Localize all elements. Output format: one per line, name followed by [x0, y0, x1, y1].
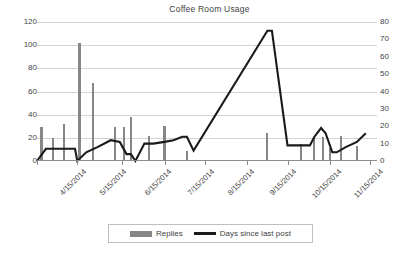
y-axis-right-tick-label: 30: [380, 105, 410, 113]
y-axis-right-tick-label: 0: [380, 157, 410, 165]
y-axis-left-tick-label: 40: [7, 111, 37, 119]
y-axis-right-tick-label: 50: [380, 70, 410, 78]
x-axis-tick-label: 5/15/2014: [98, 167, 128, 197]
x-axis-tick: [288, 161, 289, 165]
x-axis-tick: [37, 161, 38, 165]
line-series-days-since-last-post: [37, 22, 377, 161]
x-axis-tick: [330, 161, 331, 165]
x-axis-tick: [165, 161, 166, 165]
x-axis-tick-label: 9/15/2014: [268, 167, 298, 197]
plot-area: [37, 22, 377, 161]
x-axis-tick-label: 11/15/2014: [352, 167, 385, 200]
x-axis-tick: [370, 161, 371, 165]
chart-title: Coffee Room Usage: [0, 4, 419, 14]
y-axis-left-tick-label: 60: [7, 88, 37, 96]
y-axis-left-tick-label: 120: [7, 18, 37, 26]
line-path: [37, 31, 366, 161]
x-axis-tick: [205, 161, 206, 165]
y-axis-right-tick-label: 10: [380, 140, 410, 148]
y-axis-right-tick-label: 70: [380, 35, 410, 43]
chart-container: Coffee Room Usage 020406080100120 010203…: [0, 0, 419, 254]
y-axis-right-tick-label: 40: [380, 88, 410, 96]
x-axis-tick-label: 6/15/2014: [143, 167, 173, 197]
x-axis-tick: [247, 161, 248, 165]
line-swatch-icon: [194, 232, 216, 235]
legend-label-days-since-last-post: Days since last post: [220, 229, 291, 238]
legend-item-replies[interactable]: Replies: [130, 229, 183, 238]
x-axis-tick-label: 7/15/2014: [185, 167, 215, 197]
y-axis-left-tick-label: 20: [7, 134, 37, 142]
chart-legend: Replies Days since last post: [108, 224, 313, 243]
y-axis-left-tick-label: 100: [7, 41, 37, 49]
y-axis-right-tick-label: 20: [380, 122, 410, 130]
bar-swatch-icon: [130, 231, 152, 237]
x-axis-tick-label: 8/15/2014: [226, 167, 256, 197]
x-axis-tick-label: 4/15/2014: [58, 167, 88, 197]
y-axis-left-tick-label: 80: [7, 64, 37, 72]
x-axis-line: [37, 160, 377, 161]
legend-item-days-since-last-post[interactable]: Days since last post: [194, 229, 291, 238]
x-axis-tick-label: 10/15/2014: [310, 167, 343, 200]
legend-label-replies: Replies: [156, 229, 183, 238]
y-axis-right-tick-label: 80: [380, 18, 410, 26]
x-axis-tick: [122, 161, 123, 165]
y-axis-right-tick-label: 60: [380, 53, 410, 61]
y-axis-left-tick-label: 0: [7, 157, 37, 165]
x-axis-tick: [77, 161, 78, 165]
